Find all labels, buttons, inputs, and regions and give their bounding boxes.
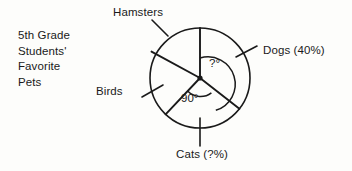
angle-label-ninety: 90° xyxy=(181,92,198,104)
chart-title-line-3: Favorite xyxy=(18,59,70,75)
chart-title-line-1: 5th Grade xyxy=(18,28,70,44)
leader-tick-hamsters xyxy=(152,20,168,36)
chart-title: 5th Grade Students' Favorite Pets xyxy=(18,28,70,90)
slice-label-dogs: Dogs (40%) xyxy=(263,44,325,56)
slice-label-birds: Birds xyxy=(96,85,123,97)
chart-title-line-4: Pets xyxy=(18,75,70,91)
slice-label-cats: Cats (?%) xyxy=(176,148,228,160)
divider-birds-hamsters xyxy=(152,52,201,78)
angle-label-unknown: ?° xyxy=(209,57,220,69)
pie-chart-figure: 5th Grade Students' Favorite Pets Hamste… xyxy=(0,0,352,171)
pie-center-point xyxy=(197,75,202,80)
chart-title-line-2: Students' xyxy=(18,44,70,60)
slice-label-hamsters: Hamsters xyxy=(113,6,163,18)
